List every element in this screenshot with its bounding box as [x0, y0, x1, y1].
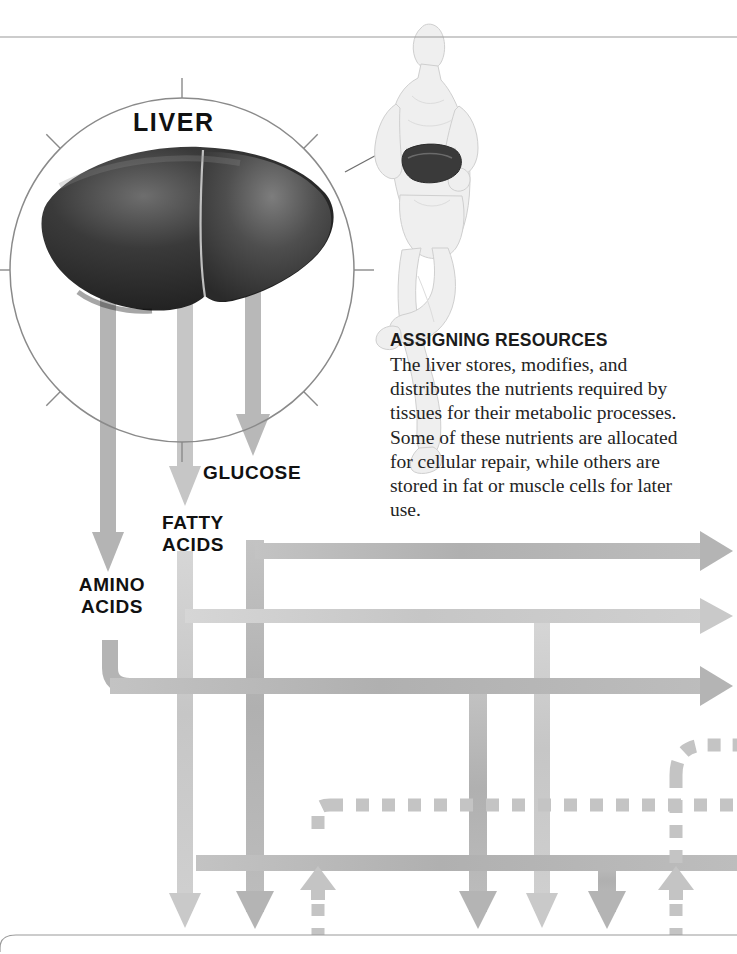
callout-body: The liver stores, modifies, and distribu…: [390, 353, 700, 522]
callout-heading: ASSIGNING RESOURCES: [390, 330, 700, 351]
diagram-canvas: LIVER GLUCOSE FATTY ACIDS AMINO ACIDS AS…: [0, 0, 737, 954]
magnifier-label: LIVER: [133, 108, 215, 137]
label-glucose: GLUCOSE: [203, 462, 301, 484]
callout-assigning-resources: ASSIGNING RESOURCES The liver stores, mo…: [390, 330, 700, 522]
bottom-rule: [0, 935, 737, 952]
label-fatty-acids: FATTY ACIDS: [149, 512, 237, 556]
label-amino-acids: AMINO ACIDS: [62, 574, 162, 618]
